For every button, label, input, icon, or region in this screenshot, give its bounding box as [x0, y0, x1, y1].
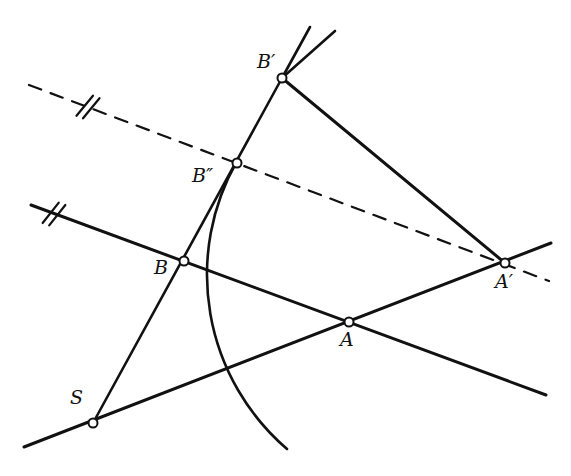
- point-label-B-double: B″: [192, 166, 213, 185]
- ray-from-Bprime-outer: [282, 31, 335, 78]
- tick-on-dashed-line: [76, 96, 99, 119]
- point-label-B: B: [154, 258, 168, 277]
- point-marker-B-double[interactable]: [233, 159, 242, 168]
- point-marker-S[interactable]: [89, 419, 98, 428]
- arc-through-Bdouble: [207, 161, 287, 449]
- segment-S-to-Bprime: [93, 78, 282, 423]
- point-label-A: A: [340, 330, 354, 349]
- figure-canvas: [0, 0, 571, 476]
- geometry-figure: B′B″BAA′S: [0, 0, 571, 476]
- line-through-S-and-A: [24, 243, 551, 447]
- point-marker-A[interactable]: [345, 318, 354, 327]
- point-label-B-prime: B′: [257, 52, 275, 71]
- point-marker-A-prime[interactable]: [501, 259, 510, 268]
- point-label-A-prime: A′: [495, 272, 513, 291]
- dashed-line-Bdouble-Aprime: [29, 85, 549, 281]
- point-marker-B[interactable]: [180, 257, 189, 266]
- point-label-S: S: [70, 388, 83, 407]
- ray-from-Bprime-upper: [282, 27, 310, 78]
- point-marker-B-prime[interactable]: [278, 74, 287, 83]
- segment-Bprime-to-Aprime: [282, 78, 505, 263]
